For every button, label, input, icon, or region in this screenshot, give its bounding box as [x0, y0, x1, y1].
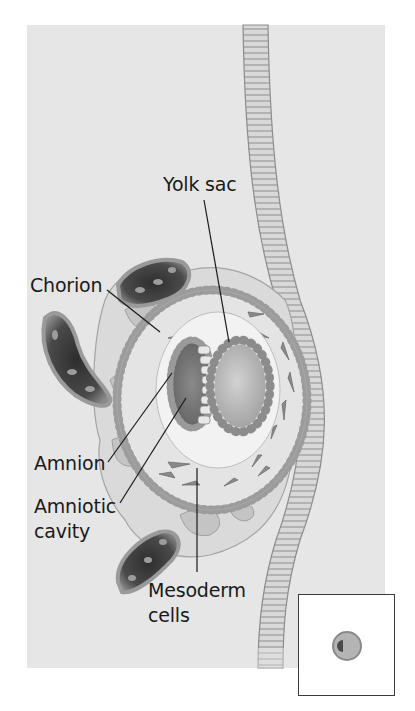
- label-yolk-sac: Yolk sac: [163, 173, 236, 195]
- inset-blastocyst-icon: [299, 595, 396, 697]
- label-mesoderm-1: Mesoderm: [148, 579, 246, 601]
- inset-box: [298, 594, 395, 696]
- yolk-sac: [210, 340, 270, 432]
- label-mesoderm-2: cells: [148, 604, 190, 626]
- label-amniotic-cavity-2: cavity: [34, 520, 90, 542]
- label-amnion: Amnion: [34, 452, 105, 474]
- label-amniotic-cavity-1: Amniotic: [34, 495, 116, 517]
- label-chorion: Chorion: [30, 274, 102, 296]
